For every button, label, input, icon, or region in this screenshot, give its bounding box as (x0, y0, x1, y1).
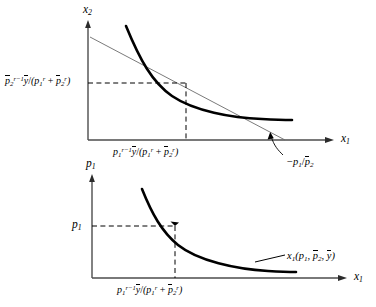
lower-y-axis-label: p1 (86, 158, 96, 171)
demand-curve-label-leader (255, 255, 285, 262)
upper-x-tick-label: p1r−1y/(p1r + p2r) (113, 147, 178, 159)
lower-y-tick-label: p1 (72, 219, 82, 232)
upper-y-axis-arrow (85, 20, 91, 28)
upper-x-axis-arrow (325, 137, 334, 143)
figure-root: x2 x1 p2r−1y/(p1r + p2r) p1r−1y/(p1r + p… (0, 0, 376, 307)
upper-panel-graphics (85, 20, 334, 155)
upper-x-axis-label: x1 (341, 133, 350, 146)
lower-x-axis-label: x1 (354, 271, 363, 284)
indifference-curve (126, 26, 292, 120)
lower-panel-graphics (89, 174, 347, 281)
demand-curve (142, 189, 296, 272)
slope-annotation-leader (271, 136, 283, 155)
demand-point-marker (171, 222, 180, 227)
upper-y-tick-label: p2r−1y/(p1r + p2r) (5, 76, 70, 88)
lower-x-tick-label: p1r−1y/(p1r + p2r) (117, 285, 182, 297)
lower-y-axis-arrow (89, 174, 95, 182)
budget-line (90, 37, 285, 140)
demand-curve-label: x1(p1, p2, y) (287, 251, 335, 263)
budget-line-slope-label: −p1/p2 (287, 157, 313, 169)
upper-y-axis-label: x2 (83, 4, 92, 17)
lower-x-axis-arrow (338, 275, 347, 281)
